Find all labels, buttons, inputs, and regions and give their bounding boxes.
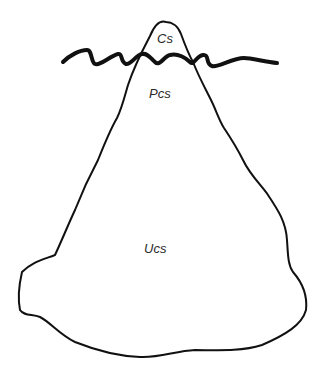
middle-label-pcs: Pcs — [149, 86, 171, 101]
tip-label-cs: Cs — [157, 31, 173, 46]
iceberg-outline — [19, 22, 306, 358]
iceberg-diagram — [0, 0, 322, 371]
base-label-ucs: Ucs — [144, 241, 166, 256]
water-line-wave — [63, 50, 277, 66]
